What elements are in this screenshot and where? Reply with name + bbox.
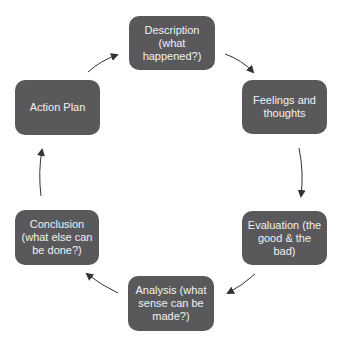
node-feelings-label: Feelings and thoughts <box>253 94 316 120</box>
arrow-feelings-to-evaluation <box>299 148 302 196</box>
arrow-evaluation-to-analysis <box>228 274 255 293</box>
node-evaluation: Evaluation (the good & the bad) <box>242 211 327 265</box>
node-conclusion: Conclusion (what else can be done?) <box>15 210 99 265</box>
arrow-analysis-to-conclusion <box>87 274 118 293</box>
arrow-conclusion-to-action-plan <box>40 150 42 196</box>
node-evaluation-label: Evaluation (the good & the bad) <box>248 219 321 258</box>
arrow-description-to-feelings <box>225 54 253 72</box>
node-analysis: Analysis (what sense can be made?) <box>128 276 214 331</box>
node-feelings: Feelings and thoughts <box>242 80 327 134</box>
node-analysis-label: Analysis (what sense can be made?) <box>136 284 207 323</box>
node-action-plan-label: Action Plan <box>30 101 86 114</box>
node-description: Description (what happened?) <box>129 16 215 70</box>
arrow-action-plan-to-description <box>88 55 117 72</box>
node-conclusion-label: Conclusion (what else can be done?) <box>22 218 93 257</box>
node-description-label: Description (what happened?) <box>143 24 202 63</box>
node-action-plan: Action Plan <box>15 80 100 135</box>
reflective-cycle-diagram: Description (what happened?) Feelings an… <box>0 0 342 344</box>
